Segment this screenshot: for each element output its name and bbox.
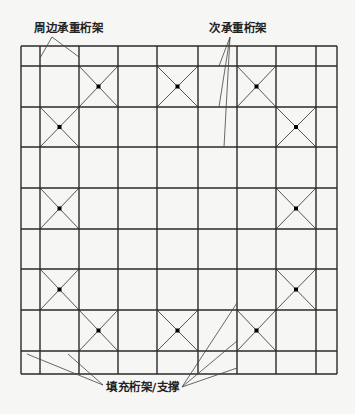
leader-line-perimeter xyxy=(52,37,79,57)
leader-line-perimeter xyxy=(40,37,52,58)
truss-plan-diagram xyxy=(0,0,355,414)
secondary-truss-label: 次承重桁架 xyxy=(209,19,267,35)
leader-line-secondary xyxy=(224,37,230,147)
node-dot-icon xyxy=(255,85,259,89)
node-dot-icon xyxy=(255,329,259,333)
node-dot-icon xyxy=(58,125,62,129)
leader-line-infill_left xyxy=(68,354,103,385)
leader-line-infill_right xyxy=(182,368,237,387)
node-dot-icon xyxy=(294,288,298,292)
node-dot-icon xyxy=(97,85,101,89)
perimeter-truss-label: 周边承重桁架 xyxy=(34,19,103,35)
node-dot-icon xyxy=(294,125,298,129)
leader-line-infill_right xyxy=(182,341,237,387)
node-dot-icon xyxy=(58,288,62,292)
infill-truss-label: 填充桁架/支撑 xyxy=(106,378,180,394)
node-dot-icon xyxy=(176,329,180,333)
node-dot-icon xyxy=(58,207,62,211)
leader-line-infill_left xyxy=(27,354,103,385)
node-dot-icon xyxy=(97,329,101,333)
node-dot-icon xyxy=(176,85,180,89)
node-dot-icon xyxy=(294,207,298,211)
